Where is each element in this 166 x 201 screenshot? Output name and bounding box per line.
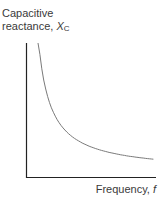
- plot-area: [0, 0, 166, 201]
- reactance-curve: [38, 43, 153, 159]
- x-axis-symbol: f: [153, 183, 156, 195]
- x-axis-label: Frequency, f: [96, 183, 156, 196]
